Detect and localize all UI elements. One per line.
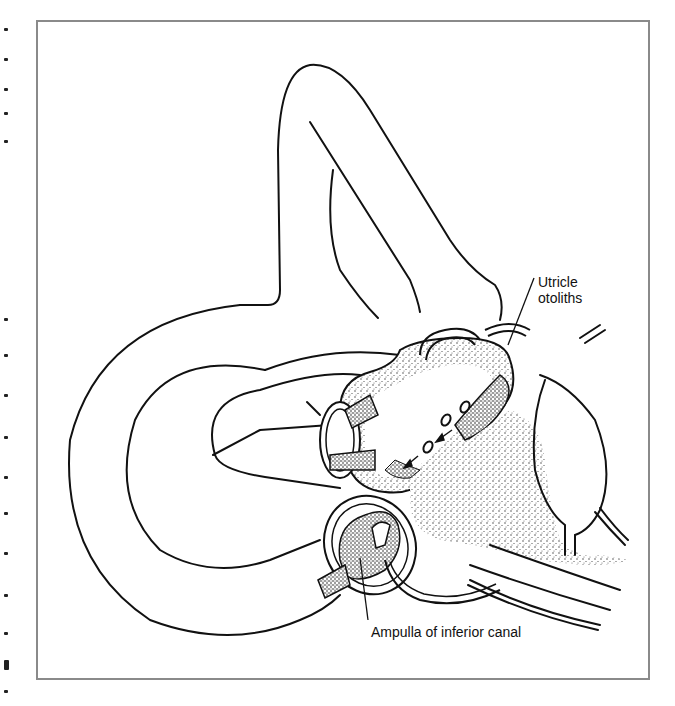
lateral-canal-lower bbox=[215, 455, 340, 488]
posterior-canal-inner bbox=[127, 366, 320, 568]
inner-ear-illustration bbox=[0, 0, 675, 706]
ampulla-label: Ampulla of inferior canal bbox=[371, 624, 521, 640]
superior-canal-inner bbox=[310, 122, 420, 312]
posterior-canal-outer bbox=[69, 305, 340, 635]
utricle-label-line1: Utricle bbox=[538, 274, 582, 290]
utricle-label-line2: otoliths bbox=[538, 290, 582, 306]
utricle-leader-line bbox=[508, 278, 534, 345]
lateral-canal-outer bbox=[265, 352, 400, 370]
superior-canal bbox=[240, 65, 502, 320]
lateral-canal-tip bbox=[213, 425, 330, 455]
utricle-label: Utricle otoliths bbox=[538, 274, 582, 306]
